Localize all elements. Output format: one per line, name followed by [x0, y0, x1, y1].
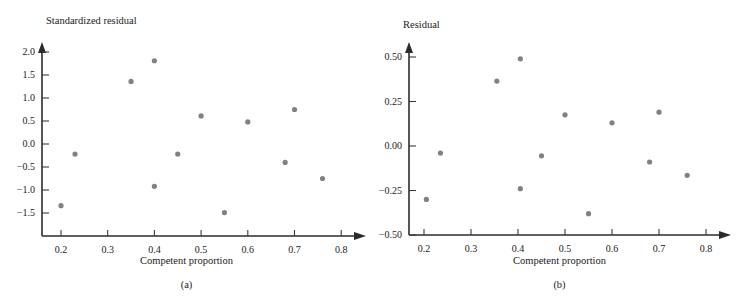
data-point: [245, 119, 250, 124]
x-axis-title-b: Competent proportion: [373, 256, 746, 267]
data-point: [320, 176, 325, 181]
data-point: [58, 203, 63, 208]
data-point: [656, 110, 661, 115]
y-tick-label: −0.5: [2, 162, 35, 172]
x-tick-label: 0.7: [639, 244, 679, 254]
data-point: [152, 184, 157, 189]
data-point: [494, 78, 499, 83]
x-tick-label: 0.3: [451, 244, 491, 254]
panel-b: Residual Competent proportion (b) 0.20.3…: [373, 0, 746, 298]
data-point: [586, 211, 591, 216]
data-point: [128, 79, 133, 84]
data-point: [222, 210, 227, 215]
data-point: [424, 197, 429, 202]
y-tick-label: 1.5: [2, 70, 35, 80]
data-point: [539, 153, 544, 158]
x-tick-label: 0.2: [41, 245, 81, 255]
x-tick-label: 0.3: [88, 245, 128, 255]
y-tick-label: −1.5: [2, 208, 35, 218]
figure-container: Standardized residual Competent proporti…: [0, 0, 746, 298]
data-point: [292, 107, 297, 112]
x-axis-title-a: Competent proportion: [0, 256, 373, 267]
data-point: [199, 113, 204, 118]
x-tick-label: 0.5: [181, 245, 221, 255]
data-point: [609, 120, 614, 125]
x-tick-label: 0.4: [134, 245, 174, 255]
panel-caption-b: (b): [373, 280, 746, 291]
y-tick-label: 2.0: [2, 47, 35, 57]
data-point: [562, 112, 567, 117]
data-point: [518, 56, 523, 61]
y-axis-title-a: Standardized residual: [46, 16, 137, 27]
x-tick-label: 0.4: [498, 244, 538, 254]
data-point: [283, 160, 288, 165]
data-point: [647, 159, 652, 164]
data-point: [152, 58, 157, 63]
y-tick-label: −1.0: [2, 185, 35, 195]
y-tick-label: 1.0: [2, 93, 35, 103]
data-point: [685, 173, 690, 178]
y-tick-label: −0.25: [369, 186, 402, 196]
y-tick-label: 0.5: [2, 116, 35, 126]
x-tick-label: 0.6: [228, 245, 268, 255]
y-tick-label: −0.50: [369, 230, 402, 240]
x-tick-label: 0.5: [545, 244, 585, 254]
y-tick-label: 0.0: [2, 139, 35, 149]
y-tick-label: 0.50: [369, 52, 402, 62]
y-tick-label: 0.25: [369, 97, 402, 107]
y-tick-label: 0.00: [369, 141, 402, 151]
data-point: [175, 152, 180, 157]
panel-a: Standardized residual Competent proporti…: [0, 0, 373, 298]
data-point: [72, 152, 77, 157]
x-tick-label: 0.6: [592, 244, 632, 254]
y-axis-title-b: Residual: [403, 20, 440, 31]
x-tick-label: 0.8: [321, 245, 361, 255]
data-point: [438, 151, 443, 156]
x-tick-label: 0.2: [404, 244, 444, 254]
x-tick-label: 0.8: [686, 244, 726, 254]
data-point: [518, 186, 523, 191]
panel-caption-a: (a): [0, 280, 373, 291]
x-tick-label: 0.7: [275, 245, 315, 255]
